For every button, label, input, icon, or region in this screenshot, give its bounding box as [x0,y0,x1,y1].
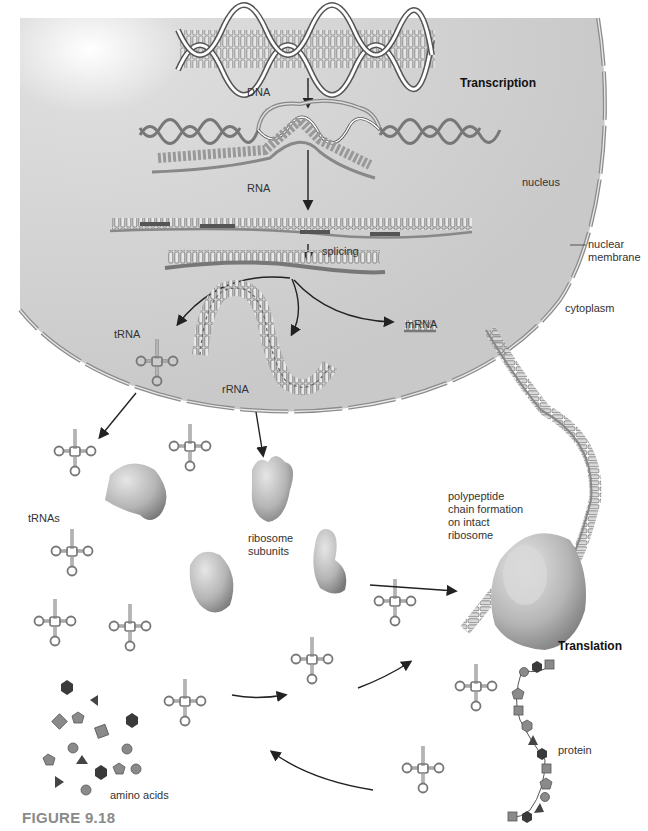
label-rna: RNA [247,182,270,195]
arrow-rrna-out [256,412,263,455]
figure-caption: FIGURE 9.18 [22,811,115,824]
ribosome-subunits [105,456,346,613]
arrow-to-intact-ribosome [370,585,455,591]
label-ribosome-subunits: ribosome subunits [248,532,293,558]
cycle-arrows [232,662,410,790]
amino-acids [43,680,141,795]
label-translation: Translation [558,640,622,653]
protein-chain [508,660,554,823]
label-mrna: mRNA [405,318,437,331]
label-splicing: splicing [322,245,359,258]
label-amino-acids: amino acids [110,789,169,802]
arrow-trna-out [100,393,136,437]
label-polypeptide: polypeptide chain formation on intact ri… [448,490,523,542]
label-dna: DNA [247,86,270,99]
label-rrna: rRNA [222,383,249,396]
label-trna: tRNA [114,328,140,341]
intact-ribosome [491,533,586,650]
label-cytoplasm: cytoplasm [565,302,615,315]
protein-synthesis-diagram [0,0,648,831]
label-transcription: Transcription [460,77,536,90]
label-nuclear-membrane: nuclear membrane [588,238,641,264]
label-nucleus: nucleus [522,176,560,189]
label-trnas: tRNAs [28,512,60,525]
label-protein: protein [558,744,592,757]
